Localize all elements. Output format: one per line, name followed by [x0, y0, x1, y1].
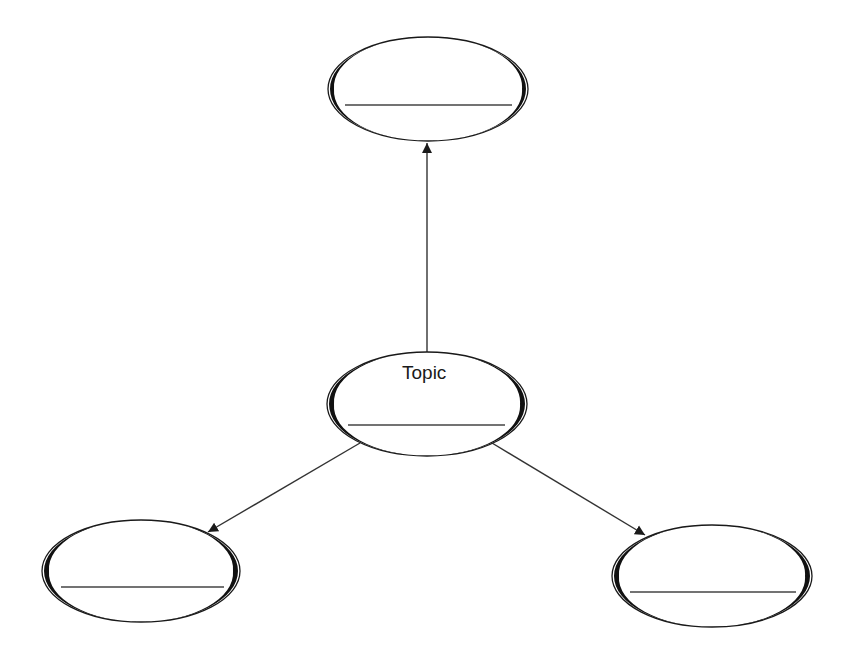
arrow-to-bottom-left-node [208, 443, 360, 532]
concept-map-svg [0, 0, 853, 666]
arrow-to-bottom-right-node [492, 443, 645, 535]
node-bottom-left[interactable] [42, 520, 240, 622]
concept-map-canvas: Topic [0, 0, 853, 666]
node-bottom-right[interactable] [612, 525, 812, 627]
edges [208, 143, 645, 535]
center-node-label: Topic [402, 362, 446, 384]
node-top[interactable] [328, 37, 528, 141]
